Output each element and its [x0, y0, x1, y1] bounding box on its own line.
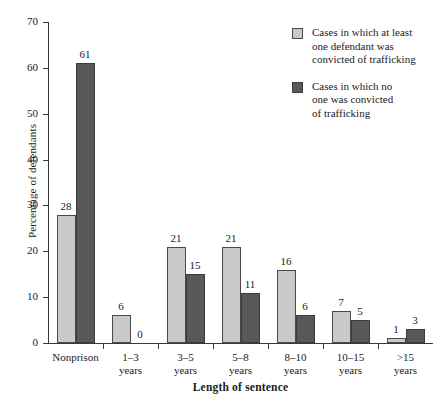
y-axis-tick-label: 20 [0, 244, 38, 256]
bar-value-label: 3 [400, 314, 430, 326]
bar-value-label: 21 [216, 232, 246, 244]
x-axis-line [48, 343, 433, 344]
y-axis-tick-label: 50 [0, 107, 38, 119]
y-axis-tick-label: 10 [0, 290, 38, 302]
x-axis-tick [158, 344, 159, 349]
x-axis-tick [268, 344, 269, 349]
y-axis-tick [43, 68, 48, 69]
bar-value-label: 6 [290, 300, 320, 312]
y-axis-tick-label: 0 [0, 336, 38, 348]
bar [387, 338, 406, 343]
bar-value-label: 11 [235, 278, 265, 290]
bar-value-label: 21 [161, 232, 191, 244]
legend-swatch-light [292, 28, 303, 39]
x-axis-category-line: years [371, 364, 441, 377]
legend-label: Cases in which no one was convicted of t… [312, 80, 441, 121]
y-axis-tick [43, 297, 48, 298]
bar [76, 63, 95, 343]
y-axis-tick [43, 114, 48, 115]
y-axis-tick [43, 22, 48, 23]
chart-legend: Cases in which at least one defendant wa… [292, 26, 441, 133]
x-axis-category-label: >15years [371, 351, 441, 377]
y-axis-tick [43, 205, 48, 206]
bar-value-label: 0 [125, 328, 155, 340]
bar [296, 315, 315, 343]
bar-value-label: 6 [106, 300, 136, 312]
bar [406, 329, 425, 343]
x-axis-tick [378, 344, 379, 349]
y-axis-tick-label: 70 [0, 15, 38, 27]
y-axis-title: Percentage of defendants [26, 61, 38, 301]
y-axis-tick [43, 343, 48, 344]
x-axis-tick [323, 344, 324, 349]
bar [241, 293, 260, 343]
legend-entry: Cases in which at least one defendant wa… [292, 26, 441, 67]
y-axis-tick-label: 30 [0, 198, 38, 210]
y-axis-line [48, 22, 49, 344]
x-axis-title: Length of sentence [48, 381, 433, 393]
x-axis-tick [213, 344, 214, 349]
legend-label: Cases in which at least one defendant wa… [312, 26, 441, 67]
bar-value-label: 61 [70, 48, 100, 60]
y-axis-tick [43, 160, 48, 161]
legend-swatch-dark [292, 82, 303, 93]
bar-value-label: 5 [345, 305, 375, 317]
bar [57, 215, 76, 343]
bar [222, 247, 241, 343]
bar [186, 274, 205, 343]
x-axis-category-line: >15 [371, 351, 441, 364]
y-axis-tick [43, 251, 48, 252]
bar-chart: Percentage of defendants 010203040506070… [0, 0, 441, 406]
y-axis-tick-label: 60 [0, 61, 38, 73]
bar [351, 320, 370, 343]
bar-value-label: 15 [180, 259, 210, 271]
x-axis-tick [103, 344, 104, 349]
legend-entry: Cases in which no one was convicted of t… [292, 80, 441, 121]
y-axis-tick-label: 40 [0, 153, 38, 165]
bar-value-label: 16 [271, 255, 301, 267]
